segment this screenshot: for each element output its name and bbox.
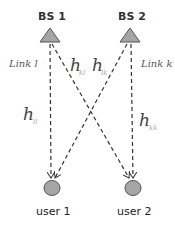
link-l-label: Link l	[8, 58, 38, 69]
svg-text:kl: kl	[79, 69, 85, 77]
user1-circle-icon	[44, 181, 60, 196]
svg-text:ll: ll	[33, 118, 37, 126]
link-bs2-user2	[131, 44, 133, 178]
user2-circle-icon	[125, 181, 141, 196]
h-kl-label: h kl	[70, 55, 85, 77]
bs2-triangle-icon	[120, 28, 140, 42]
bs1-label: BS 1	[38, 10, 66, 23]
link-bs1-user1	[50, 44, 51, 178]
user1-label: user 1	[36, 205, 71, 218]
bs1-triangle-icon	[40, 28, 60, 42]
h-lk-label: h lk	[92, 55, 107, 77]
link-k-label: Link k	[140, 58, 173, 69]
link-bs1-user2	[52, 44, 129, 178]
svg-text:lk: lk	[101, 69, 107, 77]
interference-channel-diagram: BS 1 BS 2 Link l Link k h kl h lk h ll h…	[0, 0, 175, 227]
bs2-label: BS 2	[118, 10, 146, 23]
svg-text:kk: kk	[149, 124, 157, 132]
h-ll-label: h ll	[23, 104, 37, 126]
h-kk-label: h kk	[139, 110, 157, 132]
user2-label: user 2	[117, 205, 152, 218]
